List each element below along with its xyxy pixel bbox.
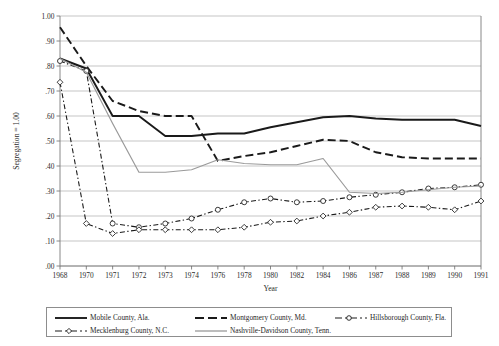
legend-swatch-nashville xyxy=(195,326,227,336)
y-tick-label: .60 xyxy=(45,112,55,121)
y-tick-label: .70 xyxy=(45,87,55,96)
legend-item-mecklenburg: Mecklenburg County, N.C. xyxy=(55,325,169,336)
series-marker-2 xyxy=(110,221,115,226)
x-tick-label: 1980 xyxy=(263,271,278,280)
x-tick-label: 1970 xyxy=(79,271,94,280)
y-tick-label: 1.00 xyxy=(42,12,55,21)
legend-swatch-montgomery xyxy=(195,313,227,323)
series-marker-3 xyxy=(478,198,484,204)
series-marker-2 xyxy=(268,196,273,201)
x-tick-label: 1982 xyxy=(289,271,304,280)
series-marker-2 xyxy=(321,199,326,204)
series-marker-3 xyxy=(399,203,405,209)
x-tick-label: 1991 xyxy=(474,271,489,280)
series-marker-3 xyxy=(320,213,326,219)
series-marker-2 xyxy=(215,207,220,212)
series-marker-3 xyxy=(57,79,63,85)
series-marker-3 xyxy=(241,224,247,230)
series-marker-3 xyxy=(83,221,89,227)
series-marker-2 xyxy=(242,200,247,205)
legend-item-montgomery: Montgomery County, Md. xyxy=(195,312,307,323)
chart-legend: Mobile County, Ala. Montgomery County, M… xyxy=(46,307,452,337)
series-marker-2 xyxy=(294,200,299,205)
legend-label-hillsborough: Hillsborough County, Fla. xyxy=(370,313,446,323)
x-tick-label: 1973 xyxy=(158,271,173,280)
y-tick-label: .80 xyxy=(45,62,55,71)
series-marker-2 xyxy=(347,195,352,200)
series-marker-3 xyxy=(425,204,431,210)
series-marker-3 xyxy=(452,207,458,213)
legend-label-mecklenburg: Mecklenburg County, N.C. xyxy=(90,326,169,336)
y-tick-label: .20 xyxy=(45,212,55,221)
segregation-line-chart: 1.00.90.80.70.60.50.40.30.20.10.00196819… xyxy=(0,0,499,346)
series-marker-2 xyxy=(189,216,194,221)
series-marker-3 xyxy=(373,204,379,210)
series-marker-3 xyxy=(294,218,300,224)
x-tick-label: 1986 xyxy=(342,271,357,280)
legend-label-montgomery: Montgomery County, Md. xyxy=(230,313,307,323)
legend-item-nashville: Nashville-Davidson County, Tenn. xyxy=(195,325,331,336)
y-tick-label: .40 xyxy=(45,162,55,171)
series-marker-3 xyxy=(189,227,195,233)
series-marker-2 xyxy=(163,221,168,226)
x-tick-label: 1971 xyxy=(105,271,120,280)
y-tick-label: .00 xyxy=(45,262,55,271)
legend-label-mobile: Mobile County, Ala. xyxy=(90,313,150,323)
y-axis-title: Segregation = 1.00 xyxy=(12,112,21,170)
x-tick-label: 1990 xyxy=(447,271,462,280)
series-line-4 xyxy=(60,59,481,194)
legend-item-mobile: Mobile County, Ala. xyxy=(55,312,150,323)
y-tick-label: .30 xyxy=(45,187,55,196)
series-marker-3 xyxy=(268,219,274,225)
legend-swatch-mobile xyxy=(55,313,87,323)
legend-swatch-hillsborough xyxy=(335,313,367,323)
y-tick-label: .10 xyxy=(45,237,55,246)
legend-item-hillsborough: Hillsborough County, Fla. xyxy=(335,312,446,323)
series-marker-3 xyxy=(215,227,221,233)
series-line-0 xyxy=(60,59,481,137)
y-tick-label: .50 xyxy=(45,137,55,146)
chart-plot-area: 1.00.90.80.70.60.50.40.30.20.10.00196819… xyxy=(0,0,499,346)
x-tick-label: 1978 xyxy=(237,271,252,280)
legend-label-nashville: Nashville-Davidson County, Tenn. xyxy=(230,326,331,336)
x-tick-label: 1972 xyxy=(132,271,147,280)
x-tick-label: 1984 xyxy=(316,271,331,280)
legend-swatch-mecklenburg xyxy=(55,326,87,336)
x-axis-title: Year xyxy=(264,284,278,293)
y-tick-label: .90 xyxy=(45,37,55,46)
series-marker-3 xyxy=(110,231,116,237)
x-tick-label: 1968 xyxy=(53,271,68,280)
x-tick-label: 1987 xyxy=(368,271,383,280)
x-tick-label: 1976 xyxy=(210,271,225,280)
x-tick-label: 1988 xyxy=(395,271,410,280)
x-tick-label: 1974 xyxy=(184,271,199,280)
series-marker-3 xyxy=(347,209,353,215)
x-tick-label: 1989 xyxy=(421,271,436,280)
series-marker-3 xyxy=(162,227,168,233)
